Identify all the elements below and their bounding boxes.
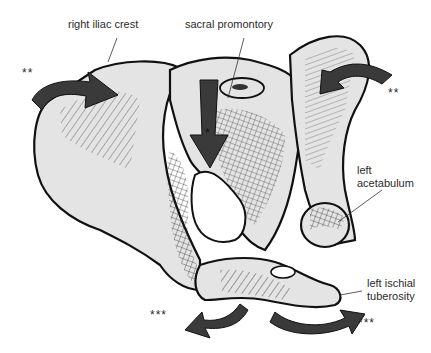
leader-ischial-tuberosity [340,291,362,295]
marker-triple-star-left: *** [150,308,167,322]
marker-double-star-left: ** [22,66,33,80]
marker-triple-star-right: *** [358,316,375,330]
label-left-ischial-2: tuberosity [367,290,415,303]
marker-single-star: * [205,126,211,140]
label-right-iliac-crest: right iliac crest [68,18,138,31]
arrow-bottom-left [185,304,248,338]
sacral-canal [232,84,248,90]
label-sacral-promontory: sacral promontory [185,18,273,31]
obturator-foramen [271,266,295,278]
leader-iliac-crest [108,38,117,62]
marker-double-star-right: ** [388,86,399,100]
label-left-acetabulum-2: acetabulum [357,177,414,190]
label-left-ischial-1: left ischial [367,277,415,290]
arrow-bottom-right [270,310,365,334]
label-left-acetabulum-1: left [357,164,372,177]
